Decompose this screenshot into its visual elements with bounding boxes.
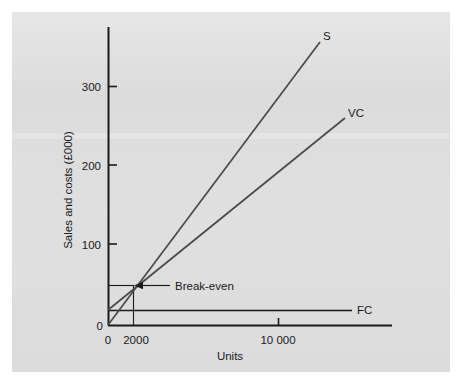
y-axis-ticks: 300 200 100 0 [82,81,117,332]
series-labels-group: S VC FC [323,30,372,316]
break-even-label: Break-even [175,280,234,292]
y-tick-label-300: 300 [82,81,101,93]
y-tick-label-100: 100 [82,239,101,251]
y-tick-label-0: 0 [97,320,103,332]
series-label-s: S [323,30,331,42]
y-tick-label-200: 200 [82,160,101,172]
series-label-fc: FC [357,304,372,316]
x-tick-label-10000: 10 000 [260,334,295,346]
x-axis-title: Units [217,350,243,362]
chart-plot-area: 300 200 100 0 0 2000 10 000 Sales and co… [0,0,467,387]
x-tick-label-0: 0 [105,334,111,346]
series-label-vc: VC [348,107,364,119]
y-axis-title: Sales and costs (£000) [62,131,74,249]
x-tick-label-2000: 2000 [123,334,149,346]
break-even-chart-figure: 300 200 100 0 0 2000 10 000 Sales and co… [0,0,467,387]
axes-group [108,27,392,326]
break-even-annotation: Break-even [134,280,234,292]
